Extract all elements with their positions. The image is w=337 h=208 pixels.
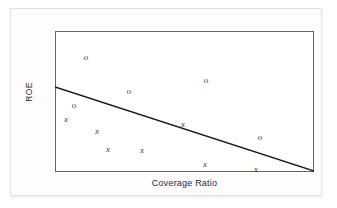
y-axis-label: ROE [24, 72, 34, 112]
data-point-x: x [253, 164, 258, 172]
plot-canvas: o o o o o x x x x x x x [55, 31, 314, 172]
marker-group-circles: o o o o o [72, 52, 263, 142]
data-point-x: x [139, 145, 144, 155]
data-point-x: x [180, 119, 185, 129]
trendline [55, 87, 314, 171]
data-point-o: o [204, 75, 209, 85]
data-point-x: x [94, 126, 99, 136]
figure-card: o o o o o x x x x x x x ROE Cov [10, 8, 322, 196]
data-point-x: x [105, 144, 110, 154]
x-axis-label: Coverage Ratio [55, 178, 314, 188]
data-point-o: o [127, 86, 132, 96]
data-point-x: x [63, 114, 68, 124]
data-point-o: o [84, 52, 89, 62]
data-point-x: x [202, 159, 207, 169]
figure-root: o o o o o x x x x x x x ROE Cov [0, 0, 337, 208]
scatter-plot: o o o o o x x x x x x x [55, 31, 314, 172]
data-point-o: o [258, 132, 263, 142]
data-point-o: o [72, 100, 77, 110]
